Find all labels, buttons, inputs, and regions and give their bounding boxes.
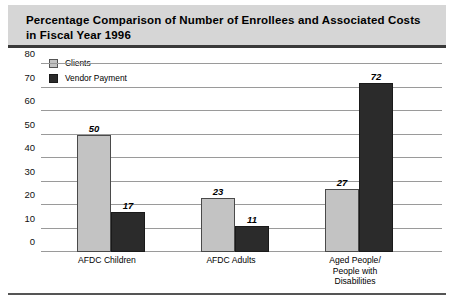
gridline-80	[41, 63, 442, 64]
ytick-label-10: 10	[9, 212, 35, 223]
ytick-label-30: 30	[9, 165, 35, 176]
ytick-label-20: 20	[9, 189, 35, 200]
bar-aged-people-clients: 27	[325, 189, 359, 253]
bar-value-aged-people-clients: 27	[337, 177, 348, 188]
ytick-label-0: 0	[9, 236, 35, 247]
ytick-label-50: 50	[9, 118, 35, 129]
chart-title-band: Percentage Comparison of Number of Enrol…	[8, 5, 446, 45]
ytick-label-40: 40	[9, 142, 35, 153]
chart-figure: Percentage Comparison of Number of Enrol…	[0, 0, 455, 303]
bottom-divider	[8, 293, 446, 295]
bar-afdc-children-clients: 50	[77, 135, 111, 253]
bar-value-afdc-adults-clients: 23	[213, 186, 224, 197]
ytick-label-60: 60	[9, 95, 35, 106]
title-divider	[8, 45, 446, 48]
bar-value-aged-people-vendor-payment: 72	[371, 71, 382, 82]
chart-title: Percentage Comparison of Number of Enrol…	[26, 13, 446, 42]
bar-afdc-adults-clients: 23	[201, 198, 235, 252]
bar-value-afdc-adults-vendor-payment: 11	[247, 214, 257, 225]
bar-afdc-children-vendor-payment: 17	[111, 212, 145, 252]
bar-value-afdc-children-clients: 50	[89, 123, 100, 134]
plot-area: 0 10 20 30 40 50 60 70 80 50 17 23 11 27…	[41, 64, 442, 252]
bar-aged-people-vendor-payment: 72	[359, 83, 393, 252]
ytick-label-80: 80	[9, 48, 35, 59]
ytick-label-70: 70	[9, 71, 35, 82]
bar-afdc-adults-vendor-payment: 11	[235, 226, 269, 252]
category-label-afdc-adults: AFDC Adults	[181, 255, 281, 266]
bar-value-afdc-children-vendor-payment: 17	[123, 200, 134, 211]
category-label-afdc-children: AFDC Children	[57, 255, 157, 266]
category-label-aged-people: Aged People/ People with Disabilities	[305, 255, 405, 287]
